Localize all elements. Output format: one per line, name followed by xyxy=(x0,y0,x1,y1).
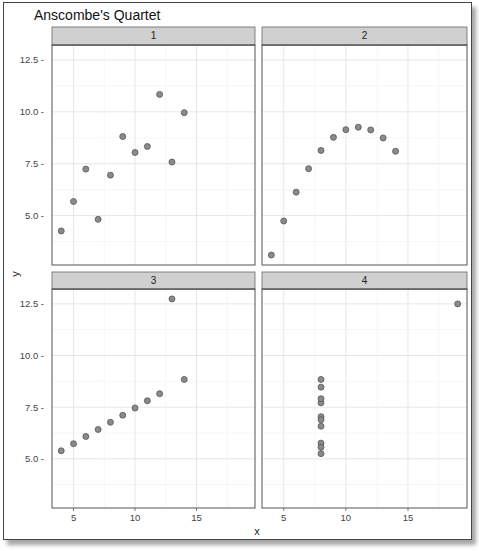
y-tick-label: 7.5 - xyxy=(25,402,44,413)
data-point xyxy=(318,451,324,457)
data-point xyxy=(181,376,187,382)
y-tick-label: 5.0 - xyxy=(25,210,44,221)
panel-background xyxy=(52,289,255,508)
data-point xyxy=(58,448,64,454)
facet-panel-2: 2 xyxy=(262,27,467,265)
x-tick-label: 15 xyxy=(403,512,414,523)
facet-panel-4: 451015 xyxy=(262,272,467,523)
facet-panel-3: 35.0 -7.5 -10.0 -12.5 -51015 xyxy=(20,272,255,523)
y-tick-label: 10.0 - xyxy=(20,106,44,117)
panel-background xyxy=(262,289,467,508)
data-point xyxy=(95,426,101,432)
data-point xyxy=(181,110,187,116)
data-point xyxy=(268,252,274,258)
data-point xyxy=(318,417,324,423)
data-point xyxy=(380,135,386,141)
data-point xyxy=(169,159,175,165)
x-tick-label: 5 xyxy=(71,512,76,523)
facet-strip-label: 3 xyxy=(151,275,157,286)
data-point xyxy=(95,216,101,222)
data-point xyxy=(293,189,299,195)
y-tick-label: 10.0 - xyxy=(20,350,44,361)
y-tick-label: 12.5 - xyxy=(20,54,44,65)
x-axis-label: x xyxy=(254,525,260,537)
x-tick-label: 10 xyxy=(130,512,141,523)
data-point xyxy=(83,434,89,440)
data-point xyxy=(71,441,77,447)
data-point xyxy=(120,412,126,418)
data-point xyxy=(107,419,113,425)
x-tick-label: 15 xyxy=(191,512,202,523)
y-tick-label: 12.5 - xyxy=(20,298,44,309)
facet-strip-label: 4 xyxy=(362,275,368,286)
data-point xyxy=(343,127,349,133)
data-point xyxy=(71,198,77,204)
data-point xyxy=(157,391,163,397)
y-axis-label: y xyxy=(9,271,21,277)
data-point xyxy=(318,423,324,429)
x-tick-label: 5 xyxy=(281,512,286,523)
data-point xyxy=(306,166,312,172)
data-point xyxy=(355,124,361,130)
faceted-scatter-chart: Anscombe's Quartet 15.0 -7.5 -10.0 -12.5… xyxy=(0,0,479,551)
data-point xyxy=(144,398,150,404)
facet-strip-label: 2 xyxy=(362,30,368,41)
data-point xyxy=(120,134,126,140)
panel-background xyxy=(262,45,467,265)
data-point xyxy=(455,301,461,307)
data-point xyxy=(58,228,64,234)
data-point xyxy=(318,384,324,390)
facet-panel-1: 15.0 -7.5 -10.0 -12.5 - xyxy=(20,27,255,265)
data-point xyxy=(107,172,113,178)
data-point xyxy=(330,134,336,140)
facet-strip-label: 1 xyxy=(151,30,157,41)
data-point xyxy=(169,296,175,302)
data-point xyxy=(318,444,324,450)
y-tick-label: 7.5 - xyxy=(25,158,44,169)
chart-title: Anscombe's Quartet xyxy=(34,7,161,23)
data-point xyxy=(368,127,374,133)
panel-background xyxy=(52,45,255,265)
data-point xyxy=(132,150,138,156)
data-point xyxy=(83,166,89,172)
data-point xyxy=(157,91,163,97)
data-point xyxy=(144,143,150,149)
data-point xyxy=(132,405,138,411)
data-point xyxy=(393,148,399,154)
data-point xyxy=(318,376,324,382)
panels: 15.0 -7.5 -10.0 -12.5 -235.0 -7.5 -10.0 … xyxy=(20,27,467,523)
data-point xyxy=(281,218,287,224)
y-tick-label: 5.0 - xyxy=(25,453,44,464)
x-tick-label: 10 xyxy=(341,512,352,523)
data-point xyxy=(318,147,324,153)
data-point xyxy=(318,396,324,402)
